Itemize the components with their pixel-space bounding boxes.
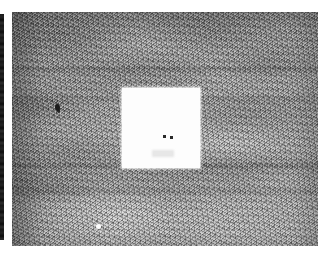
patch-residue-smudge [152, 150, 174, 157]
patch-marker-left [163, 135, 166, 138]
dark-speck-defect [55, 104, 60, 111]
adjacent-panel-sliver [0, 14, 4, 240]
micrograph-plate [12, 12, 318, 246]
figure-root: Grainy grayscale photograph of a rough, … [0, 0, 318, 256]
white-patch [122, 88, 200, 168]
patch-marker-right [170, 136, 173, 139]
bright-speck-defect [96, 224, 101, 229]
